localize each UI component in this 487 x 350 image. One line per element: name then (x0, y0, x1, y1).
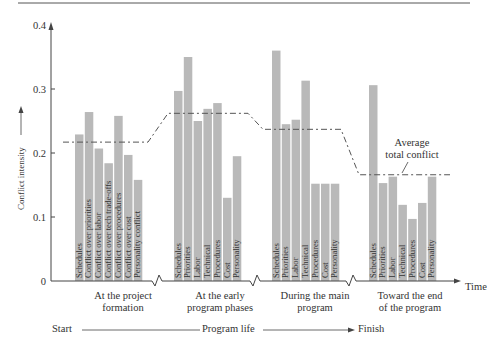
arrow-right-icon (348, 328, 355, 333)
bar-label: Cost (320, 262, 330, 278)
phase-label-main: During the main program (260, 290, 370, 314)
y-tick-label: 0.4 (33, 20, 47, 31)
bar-label: Priorities (280, 246, 290, 278)
y-tick-label: 0.1 (33, 212, 46, 223)
bar-group: SchedulesPrioritiesLaborTechnicalProcedu… (173, 57, 242, 281)
y-axis: 00.10.20.30.4 (33, 20, 55, 287)
phase-label-end: Toward the end of the program (355, 290, 465, 314)
bar-label: Conflict over tech trade-offs (103, 180, 113, 278)
bar-label: Technical (300, 244, 310, 278)
arrow-up-icon (19, 106, 24, 113)
y-tick-label: 0 (41, 276, 46, 287)
phase-label-line: program (260, 302, 370, 314)
bar-label: Conflict over procedures (113, 192, 123, 278)
y-tick-label: 0.3 (33, 84, 46, 95)
average-label-pointer (402, 162, 408, 173)
bar-label: Procedures (310, 239, 320, 278)
bar-label: Personality (426, 239, 436, 278)
bar-group: SchedulesPrioritiesLaborTechnicalProcedu… (271, 51, 340, 281)
lifeline-start-label: Start (52, 323, 72, 334)
bar-label: Personality conflict (132, 210, 142, 278)
bar-group: SchedulesPrioritiesLaborTechnicalProcedu… (368, 85, 437, 281)
time-label: Time (465, 281, 487, 292)
bar-group: SchedulesConflict over prioritiesConflic… (74, 112, 143, 281)
bar (292, 120, 301, 281)
y-axis-label: Conflict intensity (16, 147, 26, 210)
bar-label: Priorities (182, 246, 192, 278)
bar-label: Schedules (74, 242, 84, 278)
bar-label: Technical (202, 244, 212, 278)
bar-label: Personality (231, 239, 241, 278)
y-tick-label: 0.2 (33, 148, 46, 159)
bar-label: Schedules (271, 242, 281, 278)
phase-label-line: formation (68, 302, 178, 314)
bar (194, 121, 203, 281)
bar-label: Conflict over labor (93, 212, 103, 278)
phase-label-line: At the early (165, 290, 275, 302)
average-label-line2: total conflict (385, 149, 438, 160)
phase-label-line: At the project (68, 290, 178, 302)
bar-label: Procedures (212, 239, 222, 278)
bar-label: Labor (387, 257, 397, 278)
phase-label-line: program phases (165, 302, 275, 314)
phase-label-line: Toward the end (355, 290, 465, 302)
bar-label: Priorities (377, 246, 387, 278)
bar-label: Conflict over priorities (83, 199, 93, 278)
bar-label: Labor (192, 257, 202, 278)
bar-label: Technical (397, 244, 407, 278)
phase-label-line: During the main (260, 290, 370, 302)
bar-label: Labor (290, 257, 300, 278)
bar-label: Schedules (368, 242, 378, 278)
lifeline-finish-label: Finish (358, 323, 384, 334)
arrow-right-icon (454, 279, 461, 284)
bar-label: Schedules (173, 242, 183, 278)
arrow-up-icon (49, 22, 54, 30)
bar-label: Cost (417, 262, 427, 278)
phase-label-formation: At the project formation (68, 290, 178, 314)
phase-label-early: At the early program phases (165, 290, 275, 314)
lifeline-middle-label: Program life (202, 323, 255, 334)
bar-label: Conflict over cost (123, 216, 133, 278)
average-label-line1: Average (395, 137, 430, 148)
phase-label-line: of the program (355, 302, 465, 314)
bar-label: Procedures (407, 239, 417, 278)
bar-label: Personality (329, 239, 339, 278)
bar-groups: SchedulesConflict over prioritiesConflic… (74, 51, 437, 281)
bar-label: Cost (222, 262, 232, 278)
